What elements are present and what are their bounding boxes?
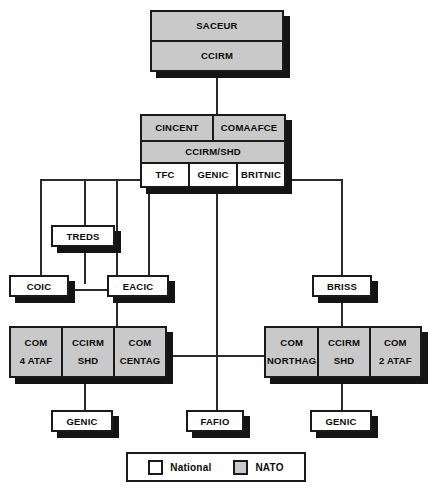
legend-label-national: National <box>170 462 211 473</box>
northag-group-box[interactable]: COM NORTHAG CCIRM SHD COM 2 ATAF <box>264 326 422 378</box>
fafio-label: FAFIO <box>188 412 242 430</box>
treds-box[interactable]: TREDS <box>51 225 115 247</box>
saceur-ccirm-label: CCIRM <box>201 51 233 62</box>
connector-saceur-to-cincent <box>216 72 218 114</box>
centag-group-box[interactable]: COM 4 ATAF CCIRM SHD COM CENTAG <box>9 326 167 378</box>
cincent-label: CINCENT <box>155 123 199 134</box>
ccirm-shd-label: CCIRM/SHD <box>185 147 241 158</box>
northag-row: COM NORTHAG CCIRM SHD COM 2 ATAF <box>266 328 420 376</box>
connector-drop-genic-left <box>84 384 86 410</box>
legend-swatch-nato <box>233 460 248 475</box>
cincent-cell[interactable]: CINCENT <box>142 116 212 140</box>
com-2ataf-sub: 2 ATAF <box>379 356 412 367</box>
com-centag-cell[interactable]: COM CENTAG <box>113 328 165 376</box>
genic-left-label: GENIC <box>53 412 111 430</box>
ccirm-shd-right-sub: SHD <box>334 356 355 367</box>
genic-center-label: GENIC <box>197 170 228 181</box>
tfc-cell[interactable]: TFC <box>142 164 188 186</box>
saceur-box[interactable]: SACEUR CCIRM <box>150 10 284 72</box>
cincent-row-national-cells: TFC GENIC BRITNIC <box>142 162 284 186</box>
saceur-label: SACEUR <box>196 21 237 32</box>
com-2ataf-main: COM <box>384 338 407 349</box>
saceur-row-0: SACEUR <box>152 12 282 40</box>
com-2ataf-cell[interactable]: COM 2 ATAF <box>369 328 420 376</box>
fafio-box[interactable]: FAFIO <box>186 410 244 432</box>
legend-swatch-national <box>148 460 163 475</box>
com-centag-main: COM <box>129 338 152 349</box>
com-northag-sub: NORTHAG <box>267 356 316 367</box>
connector-bus-left <box>40 179 150 181</box>
com-4ataf-main: COM <box>25 338 48 349</box>
com-4ataf-sub: 4 ATAF <box>20 356 53 367</box>
coic-label: COIC <box>11 277 67 295</box>
org-chart-diagram: SACEUR CCIRM CINCENT COMAAFCE CCIRM/SHD <box>0 0 432 494</box>
britnic-cell[interactable]: BRITNIC <box>236 164 284 186</box>
connector-drop-coic <box>40 179 42 275</box>
britnic-label: BRITNIC <box>241 170 281 181</box>
connector-drop-treds-left <box>84 179 86 225</box>
legend-label-nato: NATO <box>255 462 283 473</box>
comaafce-label: COMAAFCE <box>221 123 278 134</box>
ccirm-shd-right-main: CCIRM <box>328 338 360 349</box>
ccirm-shd-left-sub: SHD <box>78 356 99 367</box>
genic-right-label: GENIC <box>312 412 370 430</box>
saceur-cell-title: SACEUR <box>152 12 282 40</box>
legend: National NATO <box>126 452 306 482</box>
cincent-row-commanders: CINCENT COMAAFCE <box>142 116 284 140</box>
connector-center-to-northag <box>216 355 264 357</box>
com-4ataf-cell[interactable]: COM 4 ATAF <box>11 328 61 376</box>
com-northag-cell[interactable]: COM NORTHAG <box>266 328 317 376</box>
connector-treds-stub-left <box>84 252 86 284</box>
tfc-label: TFC <box>155 170 174 181</box>
legend-entry-nato: NATO <box>233 460 283 475</box>
ccirm-shd-cell[interactable]: CCIRM/SHD <box>142 142 284 162</box>
centag-row: COM 4 ATAF CCIRM SHD COM CENTAG <box>11 328 165 376</box>
briss-label: BRISS <box>314 277 370 295</box>
connector-center-spine <box>216 188 218 410</box>
top-caption-fragment <box>0 0 432 8</box>
cincent-group-box[interactable]: CINCENT COMAAFCE CCIRM/SHD TFC GENIC BRI… <box>140 114 286 188</box>
connector-drop-genic-right <box>341 384 343 410</box>
saceur-row-1: CCIRM <box>152 40 282 70</box>
legend-entry-national: National <box>148 460 211 475</box>
comaafce-cell[interactable]: COMAAFCE <box>212 116 284 140</box>
briss-box[interactable]: BRISS <box>312 275 372 297</box>
eacic-label: EACIC <box>109 277 167 295</box>
com-northag-main: COM <box>280 338 303 349</box>
connector-centag-to-center <box>172 355 218 357</box>
coic-box[interactable]: COIC <box>9 275 69 297</box>
genic-center-cell[interactable]: GENIC <box>188 164 236 186</box>
ccirm-shd-right-cell[interactable]: CCIRM SHD <box>317 328 368 376</box>
treds-label: TREDS <box>53 227 113 245</box>
saceur-cell-ccirm: CCIRM <box>152 42 282 70</box>
com-centag-sub: CENTAG <box>120 356 161 367</box>
connector-drop-briss <box>341 179 343 275</box>
connector-bus-right <box>283 179 343 181</box>
cincent-row-ccirm-shd: CCIRM/SHD <box>142 140 284 162</box>
ccirm-shd-left-cell[interactable]: CCIRM SHD <box>61 328 113 376</box>
genic-left-box[interactable]: GENIC <box>51 410 113 432</box>
ccirm-shd-left-main: CCIRM <box>72 338 104 349</box>
genic-right-box[interactable]: GENIC <box>310 410 372 432</box>
eacic-box[interactable]: EACIC <box>107 275 169 297</box>
